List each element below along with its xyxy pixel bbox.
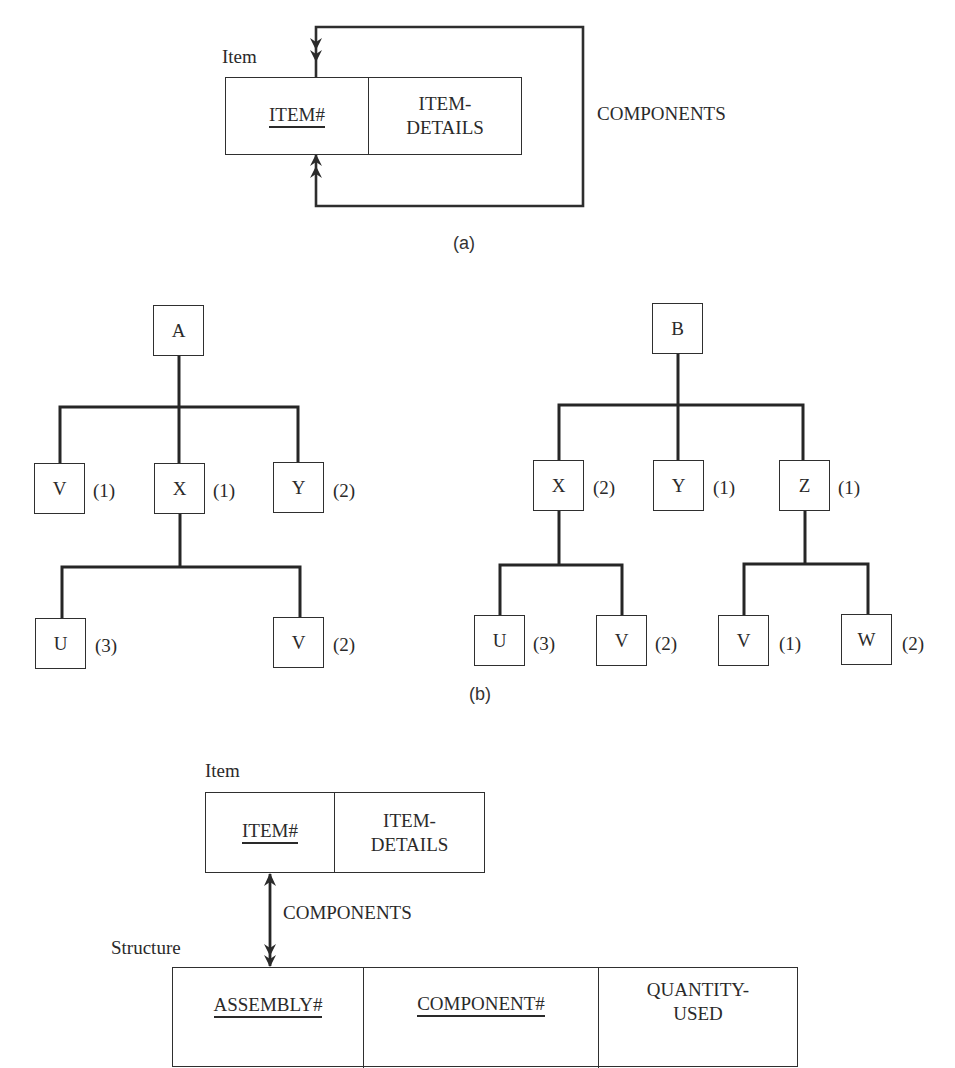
quantity-label: (1) [838, 478, 860, 497]
tree-node-root-b: B [652, 303, 703, 354]
quantity-label: (2) [333, 481, 355, 500]
field-label-line1: QUANTITY- [647, 978, 749, 1002]
primary-key-label: ITEM# [269, 105, 325, 128]
tree-node: U [35, 618, 86, 669]
field-label-line1: ITEM- [419, 92, 472, 116]
item-details-field: ITEM- DETAILS [368, 78, 521, 154]
caption-a: (a) [453, 233, 475, 254]
quantity-label: (3) [533, 634, 555, 653]
item-number-field: ITEM# [206, 793, 334, 872]
tree-node: X [154, 463, 205, 514]
tree-node: U [474, 615, 525, 666]
item-entity-box: ITEM# ITEM- DETAILS [205, 792, 485, 873]
item-entity-label: Item [222, 47, 257, 66]
assembly-number-field: ASSEMBLY# [173, 968, 363, 1044]
item-number-field: ITEM# [226, 78, 368, 154]
tree-node: V [273, 617, 324, 668]
quantity-label: (1) [213, 481, 235, 500]
tree-node: W [841, 614, 892, 665]
components-relationship-label: COMPONENTS [597, 104, 726, 123]
tree-node-root-a: A [153, 305, 204, 356]
components-relationship-label: COMPONENTS [283, 903, 412, 922]
item-entity-label: Item [205, 761, 240, 780]
tree-node: V [596, 615, 647, 666]
quantity-label: (3) [95, 636, 117, 655]
structure-entity-box: ASSEMBLY# COMPONENT# QUANTITY- USED [172, 967, 798, 1067]
tree-node: V [718, 615, 769, 666]
quantity-used-field: QUANTITY- USED [598, 968, 797, 1068]
quantity-label: (2) [593, 478, 615, 497]
item-entity-box: ITEM# ITEM- DETAILS [225, 77, 522, 155]
quantity-label: (1) [779, 634, 801, 653]
primary-key-label: ITEM# [242, 821, 298, 844]
quantity-label: (2) [333, 635, 355, 654]
caption-b: (b) [469, 684, 491, 705]
item-details-field: ITEM- DETAILS [334, 793, 484, 872]
quantity-label: (2) [902, 634, 924, 653]
primary-key-label: ASSEMBLY# [214, 995, 323, 1018]
primary-key-label: COMPONENT# [417, 994, 545, 1017]
field-label-line2: USED [673, 1002, 723, 1026]
structure-entity-label: Structure [111, 938, 181, 957]
quantity-label: (2) [655, 634, 677, 653]
quantity-label: (1) [93, 481, 115, 500]
tree-node: Y [273, 462, 324, 513]
tree-node: V [34, 463, 85, 514]
field-label-line1: ITEM- [383, 809, 436, 833]
tree-node: Y [653, 460, 704, 511]
tree-node: Z [779, 460, 830, 511]
field-label-line2: DETAILS [406, 116, 484, 140]
field-label-line2: DETAILS [371, 833, 449, 857]
quantity-label: (1) [713, 478, 735, 497]
component-number-field: COMPONENT# [363, 968, 598, 1068]
tree-node: X [533, 460, 584, 511]
